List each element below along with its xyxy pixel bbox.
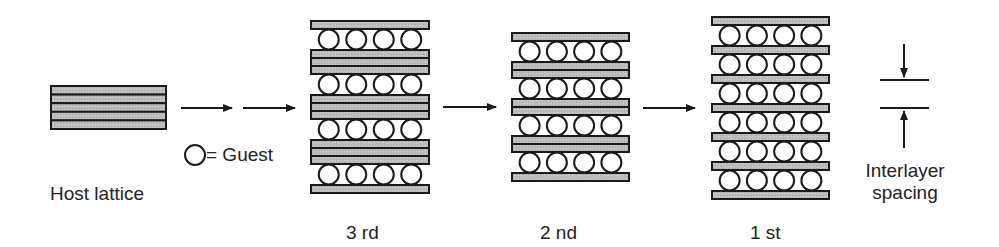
guest-legend-label: = Guest <box>206 144 273 166</box>
stage-1-label: 1 st <box>750 222 781 244</box>
interlayer-label-line2: spacing <box>850 182 960 204</box>
guest-legend-icon <box>185 145 205 165</box>
staging-diagram <box>0 0 999 247</box>
interlayer-spacing-label: Interlayer spacing <box>850 160 960 204</box>
host-lattice-label: Host lattice <box>50 183 144 205</box>
interlayer-spacing-indicator <box>880 44 929 148</box>
stage-3-structure <box>311 21 429 193</box>
stage-2-label: 2 nd <box>540 222 577 244</box>
interlayer-label-line1: Interlayer <box>850 160 960 182</box>
host-lattice <box>51 86 166 129</box>
stage-2-structure <box>512 33 629 181</box>
stage-1-structure <box>712 17 829 199</box>
stage-3-label: 3 rd <box>346 222 379 244</box>
